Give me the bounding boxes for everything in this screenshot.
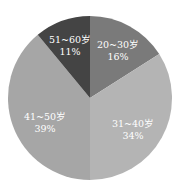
- slice-percent: 11%: [49, 46, 91, 58]
- slice-name: 31~40岁: [112, 118, 154, 130]
- slice-label-20-30: 20~30岁 16%: [97, 39, 139, 63]
- slice-percent: 39%: [24, 123, 66, 135]
- slice-name: 20~30岁: [97, 39, 139, 51]
- slice-percent: 16%: [97, 51, 139, 63]
- slice-label-31-40: 31~40岁 34%: [112, 118, 154, 142]
- slice-label-41-50: 41~50岁 39%: [24, 111, 66, 135]
- slice-percent: 34%: [112, 130, 154, 142]
- pie-svg: [0, 0, 183, 195]
- slice-name: 51~60岁: [49, 34, 91, 46]
- slice-name: 41~50岁: [24, 111, 66, 123]
- slice-label-51-60: 51~60岁 11%: [49, 34, 91, 58]
